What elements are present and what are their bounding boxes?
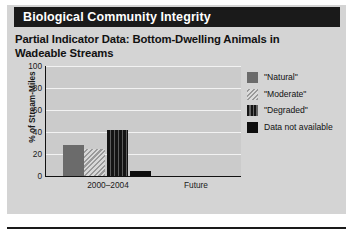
section-header-bar: Biological Community Integrity <box>14 7 340 27</box>
legend-item-data-not-available: Data not available <box>247 121 353 136</box>
legend-item-moderate: "Moderate" <box>247 88 353 103</box>
x-tick-future: Future <box>184 180 208 190</box>
legend-item-degraded: "Degraded" <box>247 104 353 119</box>
bar-natural <box>63 145 84 176</box>
legend-swatch-natural <box>247 72 258 83</box>
y-tick: 60 <box>16 105 42 115</box>
y-tick: 100 <box>16 61 42 71</box>
chart-title: Partial Indicator Data: Bottom-Dwelling … <box>15 32 315 60</box>
legend-label-data-not-available: Data not available <box>264 122 333 132</box>
legend-item-natural: "Natural" <box>247 71 353 86</box>
bottom-divider <box>7 227 346 229</box>
legend-swatch-degraded <box>247 105 258 116</box>
section-title: Biological Community Integrity <box>23 10 211 24</box>
x-tick-2000-2004: 2000–2004 <box>87 180 129 190</box>
plot-area: % of Stream-Miles 100 80 60 40 20 0 2000… <box>14 66 334 206</box>
legend-swatch-moderate <box>247 89 258 100</box>
figure-container: Biological Community Integrity Partial I… <box>0 0 353 235</box>
bar-degraded <box>107 130 128 176</box>
legend-label-moderate: "Moderate" <box>264 89 306 99</box>
y-tick: 80 <box>16 83 42 93</box>
y-tick: 0 <box>16 171 42 181</box>
bar-group-2000-2004 <box>46 66 241 176</box>
legend-label-degraded: "Degraded" <box>264 105 308 115</box>
y-tick: 20 <box>16 149 42 159</box>
legend-swatch-data-not-available <box>247 122 258 133</box>
chart-legend: "Natural" "Moderate" "Degraded" Data not… <box>247 71 353 137</box>
y-axis-ticks: 100 80 60 40 20 0 <box>14 66 42 176</box>
plot-canvas <box>45 66 241 177</box>
bar-data-not-available <box>130 171 151 177</box>
y-tick: 40 <box>16 127 42 137</box>
bar-moderate <box>84 149 105 177</box>
legend-label-natural: "Natural" <box>264 72 298 82</box>
